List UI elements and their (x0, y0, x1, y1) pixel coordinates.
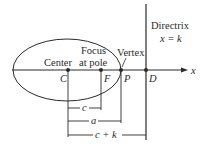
dimension-c-label: c (82, 102, 87, 113)
directrix-equation: x = k (159, 33, 182, 44)
x-axis-label: x (190, 65, 196, 76)
focus-label-line1: Focus (81, 45, 106, 56)
directrix-title: Directrix (151, 20, 190, 31)
x-axis-arrow-icon (181, 68, 188, 73)
focus-label-line2: at pole (79, 57, 108, 68)
point-d (144, 68, 148, 72)
point-f-label: F (103, 73, 111, 84)
point-d-label: D (148, 73, 157, 84)
dimension-a-label: a (91, 115, 96, 126)
ellipse-directrix-diagram: x Directrix x = k Center Focus at pole V… (0, 0, 215, 144)
dimension-ck-label: c + k (95, 129, 117, 140)
point-p-label: P (123, 73, 131, 84)
center-label: Center (44, 57, 72, 68)
vertex-label: Vertex (117, 47, 145, 58)
vertex-pointer (122, 58, 126, 67)
point-c-label: C (60, 73, 68, 84)
